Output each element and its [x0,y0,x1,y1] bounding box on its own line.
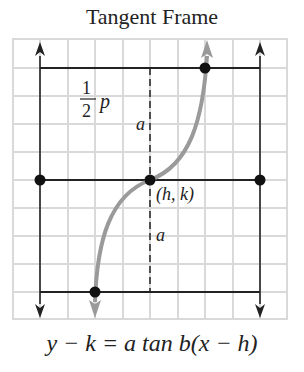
point-right-mid [255,175,266,186]
center-point-label: (h, k) [156,184,194,205]
amplitude-label-top: a [136,114,145,134]
tangent-formula: y − k = a tan b(x − h) [0,330,304,357]
point-top [200,63,211,74]
half-period-numerator: 1 [82,78,91,98]
half-period-denominator: 2 [82,101,91,121]
point-left-mid [35,175,46,186]
amplitude-label-bottom: a [156,225,165,245]
tangent-frame-diagram: 1 2 p a (h, k) a [0,0,304,372]
point-bottom [90,287,101,298]
half-period-variable: p [98,90,110,113]
point-center [145,175,156,186]
